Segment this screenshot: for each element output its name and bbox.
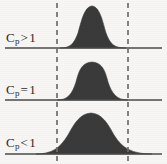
cp-subscript-3: p: [15, 141, 20, 151]
cp-symbol-1: C: [6, 30, 15, 45]
distribution-curve-cp-less-than-one: [36, 113, 152, 154]
panel-label-cp-less-than-one: Cp<1: [6, 136, 36, 151]
cp-operator-1: >: [20, 30, 28, 45]
panel-label-cp-greater-than-one: Cp>1: [6, 31, 36, 46]
cp-value-3: 1: [29, 135, 36, 150]
cp-operator-3: <: [20, 135, 28, 150]
distribution-curve-cp-equals-one: [57, 62, 128, 100]
process-capability-figure: Cp>1 Cp=1 Cp<1: [0, 0, 167, 164]
cp-subscript-2: p: [15, 88, 20, 98]
cp-symbol-3: C: [6, 135, 15, 150]
cp-value-1: 1: [29, 30, 36, 45]
cp-subscript-1: p: [15, 36, 20, 46]
cp-value-2: 1: [29, 82, 36, 97]
panel-label-cp-equals-one: Cp=1: [6, 83, 36, 98]
distribution-curve-cp-greater-than-one: [60, 6, 126, 48]
cp-operator-2: =: [20, 82, 28, 97]
cp-symbol-2: C: [6, 82, 15, 97]
